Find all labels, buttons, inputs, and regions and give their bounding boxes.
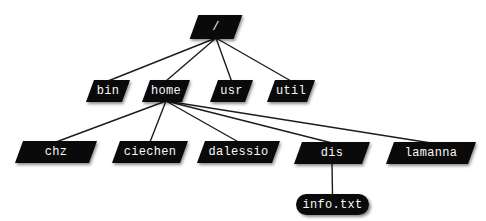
tree-edge-root-bin <box>108 38 216 81</box>
tree-node-label: info.txt <box>302 199 362 211</box>
tree-node-chz: chz <box>19 141 93 163</box>
tree-edge-root-util <box>216 38 291 81</box>
tree-node-label: chz <box>45 146 68 158</box>
tree-node-dalessio: dalessio <box>201 141 276 163</box>
filesystem-tree-diagram: / bin home usr util chz ciechen dalessio… <box>0 0 486 221</box>
tree-node-ciechen: ciechen <box>116 141 184 163</box>
tree-edge-home-ciechen <box>150 101 166 142</box>
tree-edges <box>0 0 486 221</box>
tree-node-root: / <box>194 15 238 39</box>
tree-node-lamanna: lamanna <box>390 142 472 164</box>
tree-edge-home-lamanna <box>166 101 431 143</box>
tree-node-label: dis <box>321 147 344 159</box>
tree-edge-home-chz <box>56 101 166 142</box>
tree-edge-home-dis <box>166 101 332 143</box>
tree-node-dis: dis <box>298 142 366 164</box>
tree-edge-root-home <box>166 38 216 81</box>
tree-node-bin: bin <box>90 80 126 102</box>
tree-node-label: usr <box>220 85 243 97</box>
tree-node-home: home <box>146 80 186 102</box>
tree-node-label: dalessio <box>208 146 268 158</box>
tree-node-label: / <box>212 21 220 33</box>
tree-node-label: ciechen <box>124 146 177 158</box>
tree-node-usr: usr <box>214 80 249 102</box>
tree-node-info-txt: info.txt <box>296 194 369 215</box>
tree-edge-dis-info <box>332 163 333 195</box>
tree-node-label: lamanna <box>405 147 458 159</box>
tree-node-label: util <box>276 85 306 97</box>
tree-node-label: bin <box>97 85 120 97</box>
tree-node-label: home <box>151 85 181 97</box>
tree-edge-root-usr <box>216 38 232 81</box>
tree-node-util: util <box>271 80 311 102</box>
